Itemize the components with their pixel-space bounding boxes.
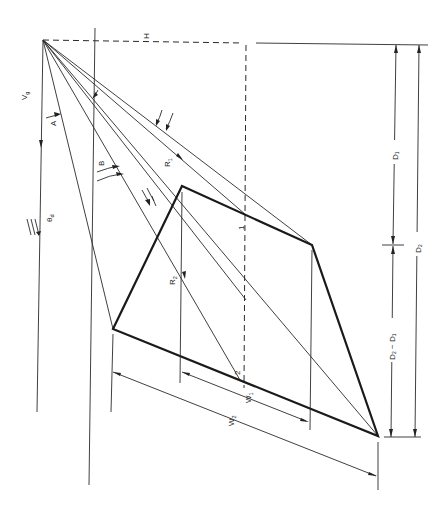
triple-arrowhead-icon [145, 199, 150, 206]
svg-text:1: 1 [237, 225, 246, 230]
d1-arrow-bottom-icon [391, 236, 395, 244]
w2-arrow-end-icon [368, 472, 377, 476]
w2-arrow-start-icon [113, 372, 121, 376]
label-a: A [49, 120, 58, 126]
label-w1: W1 [244, 392, 254, 403]
d2-arrow-top-icon [417, 45, 421, 53]
svg-text:R1: R1 [163, 158, 173, 167]
svg-text:Vg: Vg [20, 92, 30, 100]
label-r1: R1 [163, 158, 173, 167]
svg-text:A: A [49, 120, 58, 126]
top-reference-line [256, 43, 428, 45]
angle-b-arrow-icon [112, 165, 120, 169]
svg-text:W1: W1 [244, 392, 254, 403]
w1-arrow-start-icon [182, 372, 190, 376]
svg-text:2: 2 [233, 370, 242, 375]
ray-upper [43, 40, 246, 215]
triple-arrow-3 [152, 196, 156, 206]
theta-arrow-2 [31, 219, 35, 235]
ray-to-1-lower [43, 40, 246, 300]
label-point-2: 2 [233, 370, 242, 375]
vg-axis-line [37, 40, 43, 412]
r1-ray-arrow-icon [176, 153, 183, 160]
vg-axis-arrow-icon [39, 140, 43, 148]
r2-ray-arrow-icon [182, 271, 186, 279]
svg-text:D₁: D₁ [391, 151, 400, 160]
svg-text:D₂ − D₁: D₂ − D₁ [388, 333, 397, 360]
label-theta-d: θd [45, 214, 55, 222]
svg-text:D₂: D₂ [414, 244, 423, 253]
svg-text:R2: R2 [168, 276, 178, 285]
svg-text:H: H [142, 33, 151, 39]
label-h: H [142, 33, 151, 39]
geometry-diagram: H Vg A B θd R1 R2 1 2 W1 W2 D₁ D₂ − D₁ D… [0, 0, 448, 517]
ext-line-top-vertex [180, 192, 182, 383]
svg-text:W2: W2 [227, 415, 237, 426]
d2-arrow-bottom-icon [413, 429, 417, 437]
svg-text:θd: θd [45, 214, 55, 222]
label-r2: R2 [168, 276, 178, 285]
label-b: B [97, 161, 106, 166]
d1-arrow-top-icon [394, 45, 398, 53]
r1-angle-arrow2-icon [166, 124, 170, 131]
theta-arrow-1 [27, 219, 31, 235]
label-d2: D₂ [414, 244, 423, 253]
ray-center [43, 40, 378, 436]
ext-line-left-vertex [111, 334, 113, 412]
svg-text:B: B [97, 161, 106, 166]
label-d1: D₁ [391, 151, 400, 160]
ray-r1 [43, 40, 312, 245]
dashed-vertical-line [244, 45, 246, 388]
d2d1-arrow-bottom-icon [389, 429, 393, 437]
label-d2-minus-d1: D₂ − D₁ [388, 333, 397, 360]
label-w2: W2 [227, 415, 237, 426]
angle-a-arrow-icon [54, 112, 61, 117]
label-vg: Vg [20, 92, 30, 100]
d2d1-arrow-top-icon [391, 246, 395, 254]
ray-to-left-vertex [43, 40, 113, 329]
r1-angle-arrow-icon [156, 119, 160, 126]
dashed-horizon-line [43, 40, 243, 43]
label-point-1: 1 [237, 225, 246, 230]
ray-r2 [43, 40, 240, 380]
w1-arrow-end-icon [300, 418, 309, 422]
ext-line-right-vertex [310, 250, 312, 430]
